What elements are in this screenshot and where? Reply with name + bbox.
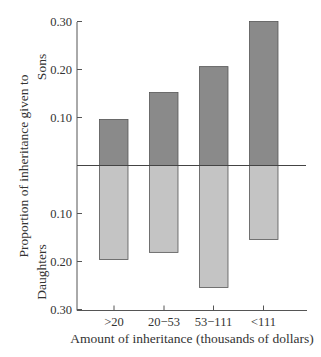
bar-daughters [200, 166, 229, 288]
y-axis-title: Proportion of inheritance given to [16, 74, 31, 257]
bar-daughters [100, 166, 129, 260]
y-tick-label-daughters: 0.30 [50, 303, 72, 317]
x-tick-label: >20 [104, 315, 124, 329]
bar-daughters [250, 166, 279, 240]
bar-daughters [150, 166, 179, 253]
y-tick-label-sons: 0.30 [50, 15, 72, 29]
x-tick-label: 20−53 [148, 315, 180, 329]
y-group-label-sons: Sons [34, 54, 49, 80]
bars-group [100, 22, 279, 288]
x-tick-label: 53−111 [195, 315, 232, 329]
x-axis-title: Amount of inheritance (thousands of doll… [70, 331, 313, 346]
y-group-label-daughters: Daughters [34, 244, 49, 299]
x-ticks-group: >2020−5353−111<111 [104, 306, 276, 330]
bar-chart: 0.100.200.300.100.200.30 >2020−5353−111<… [0, 0, 321, 357]
bar-sons [200, 67, 229, 166]
y-tick-label-sons: 0.10 [50, 111, 72, 125]
x-tick-label: <111 [251, 315, 276, 329]
bar-sons [100, 119, 129, 165]
y-tick-label-daughters: 0.20 [50, 255, 72, 269]
y-tick-label-sons: 0.20 [50, 63, 72, 77]
y-tick-label-daughters: 0.10 [50, 207, 72, 221]
bar-sons [150, 93, 179, 166]
bar-sons [250, 22, 279, 166]
